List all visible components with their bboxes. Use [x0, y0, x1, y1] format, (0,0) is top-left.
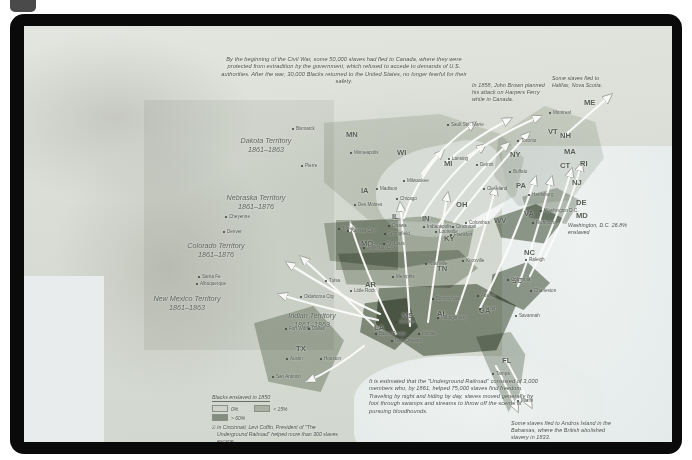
city-label: Macon [483, 306, 497, 311]
page-corner-tab [10, 0, 36, 12]
state-label-de: DE [576, 198, 587, 207]
legend-swatch-1 [254, 405, 270, 412]
city-label: Bismarck [296, 126, 315, 131]
legend-footnote: In Cincinnati, Levi Coffin, President of… [212, 424, 340, 442]
city-label: Albuquerque [200, 281, 226, 286]
state-label-nj: NJ [572, 178, 582, 187]
territory-years: 1861–1876 [238, 202, 274, 211]
map-legend: Blacks enslaved in 1850 0% < 15% > 60% I… [212, 394, 340, 442]
city-label: Baton Rouge [379, 331, 406, 336]
note-canada-flight: By the beginning of the Civil War, some … [218, 56, 470, 86]
city-label: Charleston [534, 288, 556, 293]
city-label: Raleigh [529, 257, 545, 262]
state-label-in: IN [422, 214, 430, 223]
city-label: Cheyenne [229, 214, 250, 219]
city-label: Little Rock [354, 288, 375, 293]
city-label: Ottawa [392, 223, 407, 228]
city-label: Jackson [399, 319, 416, 324]
state-label-ia: IA [361, 186, 369, 195]
territory-label: Nebraska Territory1861–1876 [219, 193, 293, 212]
state-label-nh: NH [560, 131, 571, 140]
city-label: Cleveland [487, 186, 507, 191]
territory-name: New Mexico Territory [153, 294, 220, 303]
legend-title: Blacks enslaved in 1850 [212, 394, 270, 402]
city-label: San Antonio [276, 374, 301, 379]
city-label: Miami [521, 398, 533, 403]
territory-label: New Mexico Territory1861–1863 [150, 294, 224, 313]
state-label-mn: MN [346, 130, 358, 139]
city-label: Madison [380, 186, 397, 191]
city-label: Pierre [305, 163, 317, 168]
city-label: Harrisburg [532, 192, 553, 197]
city-label: Montgomery [441, 315, 467, 320]
state-label-ct: CT [560, 161, 570, 170]
city-label: Knoxville [466, 258, 484, 263]
city-label: Washington D.C. [544, 208, 579, 213]
city-label: Tulsa [329, 278, 340, 283]
city-label: Columbia [511, 277, 530, 282]
city-label: Milwaukee [407, 178, 429, 183]
city-label: Des Moines [358, 202, 382, 207]
city-label: Savannah [519, 313, 540, 318]
territory-years: 1861–1863 [248, 145, 284, 154]
territory-label: Colorado Territory1861–1876 [179, 241, 253, 260]
note-john-brown: In 1858, John Brown planned his attack o… [472, 82, 550, 103]
city-label: Sault Ste. Marie [451, 122, 484, 127]
note-washington-dc: Washington, D.C. 26.8% enslaved [568, 222, 638, 236]
territory-years: 1861–1863 [169, 303, 205, 312]
city-label: Atlanta [481, 293, 495, 298]
city-label: Denver [227, 229, 242, 234]
city-label: Santa Fe [202, 274, 221, 279]
city-label: Austin [290, 356, 303, 361]
city-label: Toronto [521, 138, 536, 143]
city-label: Mobile [422, 331, 436, 336]
territory-name: Nebraska Territory [227, 193, 286, 202]
city-label: Detroit [480, 162, 494, 167]
legend-label-0: 0% [231, 406, 238, 412]
region-tennessee-arkansas [338, 250, 478, 288]
state-label-me: ME [584, 98, 595, 107]
legend-label-2: > 60% [231, 415, 245, 421]
note-halifax-nova-scotia: Some slaves fled to Halifax, Nova Scotia… [552, 75, 614, 89]
city-label: Montreal [553, 110, 571, 115]
state-label-il: IL [392, 212, 399, 221]
city-label: Nashville [429, 261, 448, 266]
state-label-tx: TX [296, 344, 306, 353]
territory-years: 1861–1876 [198, 250, 234, 259]
legend-swatch-2 [212, 414, 228, 421]
legend-row-top: 0% < 15% [212, 405, 340, 412]
state-label-vt: VT [548, 127, 558, 136]
city-label: Buffalo [513, 169, 527, 174]
city-label: Houston [324, 356, 341, 361]
territory-name: Colorado Territory [187, 241, 244, 250]
state-label-wi: WI [397, 148, 406, 157]
city-label: Tampa [496, 371, 510, 376]
city-label: Dallas [312, 326, 325, 331]
state-label-ri: RI [580, 159, 588, 168]
state-label-pa: PA [516, 181, 526, 190]
pacific-ocean [24, 276, 104, 442]
territory-name: Indian Territory [288, 311, 336, 320]
note-andros-island: Some slaves fled to Andros Island in the… [511, 420, 621, 441]
city-label: Louisville [439, 229, 458, 234]
territory-label: Dakota Territory1861–1863 [229, 136, 303, 155]
state-label-va: VA [524, 209, 534, 218]
city-label: Memphis [396, 274, 415, 279]
city-label: Jefferson City [367, 245, 395, 250]
state-label-nc: NC [524, 248, 535, 257]
city-label: New Orleans [395, 338, 422, 343]
legend-label-1: < 15% [273, 406, 287, 412]
city-label: Richmond [536, 220, 557, 225]
city-label: Birmingham [436, 296, 461, 301]
state-label-ny: NY [510, 150, 521, 159]
state-label-ma: MA [564, 147, 576, 156]
legend-swatch-0 [212, 405, 228, 412]
city-label: Lansing [452, 156, 468, 161]
historical-map[interactable]: By the beginning of the Civil War, some … [24, 26, 672, 442]
city-label: Cincinnati [456, 224, 476, 229]
city-label: Kansas City [351, 228, 376, 233]
state-label-wv: WV [494, 216, 506, 225]
territory-name: Dakota Territory [241, 136, 292, 145]
legend-row-bottom: > 60% [212, 414, 340, 421]
city-label: Minneapolis [354, 150, 379, 155]
